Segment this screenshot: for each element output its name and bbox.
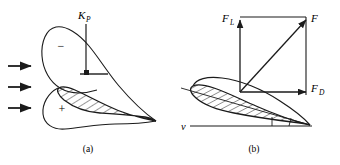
velocity-label: v bbox=[181, 121, 186, 132]
resultant-label: F bbox=[310, 12, 318, 24]
panel-b: F L F F D v (b) bbox=[181, 12, 325, 155]
airfoil-figure-svg: K P − + (a) bbox=[0, 0, 340, 165]
positive-sign-label: + bbox=[59, 102, 66, 116]
center-of-pressure-node bbox=[84, 70, 89, 75]
lift-sublabel: L bbox=[229, 18, 234, 27]
lift-label: F bbox=[221, 12, 229, 24]
panel-a: K P − + (a) bbox=[8, 9, 156, 155]
negative-sign-label: − bbox=[58, 39, 65, 53]
airfoil-section-a bbox=[58, 87, 156, 121]
caption-b: (b) bbox=[248, 144, 259, 155]
airfoil-section-b bbox=[191, 85, 310, 125]
drag-sublabel: D bbox=[318, 88, 325, 97]
caption-a: (a) bbox=[83, 144, 94, 155]
figure-root: K P − + (a) bbox=[0, 0, 340, 165]
drag-label: F bbox=[310, 82, 318, 94]
resultant-force-vector bbox=[240, 20, 306, 92]
flow-arrows-group bbox=[8, 66, 31, 108]
center-of-pressure-sublabel: P bbox=[85, 15, 91, 24]
center-of-pressure-label: K bbox=[77, 9, 86, 21]
